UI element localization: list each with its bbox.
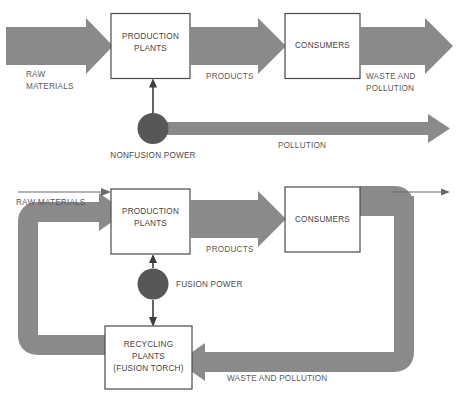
flow-raw-materials-label-line1: RAW	[26, 70, 45, 79]
node-recycling-plants-label-line2: PLANTS	[132, 352, 165, 361]
flow-products-arrow	[190, 18, 286, 74]
flow-waste-pollution-label-line2: POLLUTION	[366, 84, 414, 93]
diagram-fusion-economy: PRODUCTION PLANTS RAW MATERIALS PRODUCTS…	[16, 187, 450, 389]
node-recycling-plants-label-line1: RECYCLING	[124, 340, 174, 349]
node-nonfusion-power-label: NONFUSION POWER	[110, 151, 195, 160]
node-consumers-label: CONSUMERS	[295, 41, 350, 50]
flow-nonfusion-power-feed	[149, 79, 157, 114]
node-production-plants-label-line2: PLANTS	[134, 44, 167, 53]
flow-raw-materials-line-arrow	[18, 188, 111, 196]
flow-raw-materials-arrow	[6, 18, 113, 74]
flow-diagram: PRODUCTION PLANTS CONSUMERS RAW MATERIAL…	[0, 0, 459, 404]
node-fusion-power-circle	[138, 269, 169, 300]
flow-waste-pollution-arrow	[360, 18, 453, 74]
flow-raw-materials-label-2: RAW MATERIALS	[16, 198, 86, 207]
flow-products-arrow-2	[190, 191, 286, 247]
node-consumers-label-2: CONSUMERS	[295, 215, 350, 224]
flow-waste-pollution-label-line1: WASTE AND	[366, 72, 416, 81]
diagram-nonfusion-economy: PRODUCTION PLANTS CONSUMERS RAW MATERIAL…	[6, 14, 453, 161]
node-recycling-plants-label-line3: (FUSION TORCH)	[113, 364, 183, 373]
flow-return-loop-band	[28, 212, 112, 345]
flow-fusion-power-feed-up	[149, 254, 157, 268]
flow-raw-materials-label-line2: MATERIALS	[26, 82, 74, 91]
flow-products-label: PRODUCTS	[206, 72, 254, 81]
flow-fusion-power-feed-down	[149, 300, 157, 327]
flow-products-label-2: PRODUCTS	[206, 245, 254, 254]
node-production-plants-2-label-line1: PRODUCTION	[122, 207, 179, 216]
flow-pollution-arrow	[153, 114, 450, 143]
node-nonfusion-power-circle	[138, 113, 169, 144]
figure-canvas: PRODUCTION PLANTS CONSUMERS RAW MATERIAL…	[0, 0, 459, 404]
flow-pollution-label: POLLUTION	[278, 141, 326, 150]
node-production-plants-2-label-line2: PLANTS	[134, 219, 167, 228]
node-production-plants-label-line1: PRODUCTION	[122, 32, 179, 41]
node-fusion-power-label: FUSION POWER	[176, 280, 243, 289]
flow-waste-and-pollution-label-2: WASTE AND POLLUTION	[227, 374, 327, 383]
